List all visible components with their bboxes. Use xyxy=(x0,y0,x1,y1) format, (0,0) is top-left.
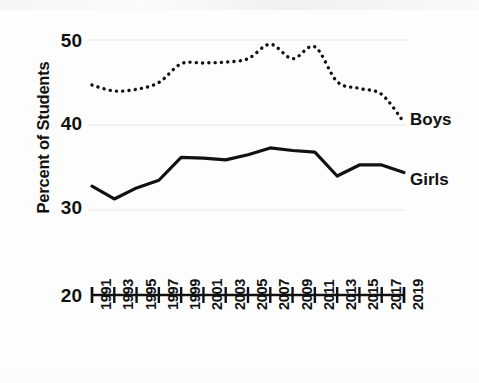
x-tick-label-2019: 2019 xyxy=(410,256,426,310)
x-tick-label-2011: 2011 xyxy=(321,256,337,310)
x-tick-label-2007: 2007 xyxy=(276,256,292,310)
plot-area xyxy=(0,0,479,383)
x-tick-label-1995: 1995 xyxy=(143,256,159,310)
x-tick-label-2005: 2005 xyxy=(254,256,270,310)
chart-figure: Percent of Students 50 40 30 20 Boys Gir… xyxy=(0,0,479,383)
x-tick-label-1997: 1997 xyxy=(165,256,181,310)
series-label-girls: Girls xyxy=(410,170,449,190)
x-tick-label-2015: 2015 xyxy=(365,256,381,310)
series-path-boys xyxy=(92,44,404,122)
x-tick-label-1991: 1991 xyxy=(98,256,114,310)
x-tick-label-1999: 1999 xyxy=(187,256,203,310)
series-path-girls xyxy=(92,148,404,199)
x-tick-label-2009: 2009 xyxy=(299,256,315,310)
x-tick-label-2013: 2013 xyxy=(343,256,359,310)
gridlines xyxy=(88,40,406,210)
x-tick-label-2001: 2001 xyxy=(209,256,225,310)
x-tick-label-2003: 2003 xyxy=(232,256,248,310)
x-tick-label-2017: 2017 xyxy=(388,256,404,310)
series-label-boys: Boys xyxy=(410,110,452,130)
series-paths xyxy=(92,44,404,199)
x-tick-label-1993: 1993 xyxy=(120,256,136,310)
